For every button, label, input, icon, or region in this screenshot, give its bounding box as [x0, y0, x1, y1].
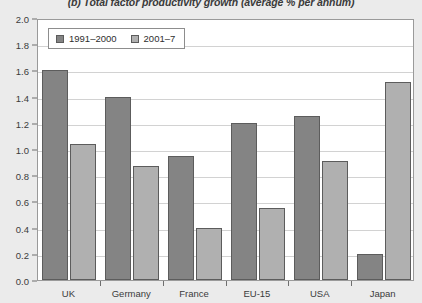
- y-axis-tick-label: 1.0: [0, 145, 29, 156]
- x-axis-tick-mark: [163, 281, 164, 286]
- y-axis-tick-label: 1.6: [0, 66, 29, 77]
- x-axis-tick-label-uk: UK: [62, 288, 75, 299]
- y-axis-tick-label: 0.8: [0, 171, 29, 182]
- x-axis-tick-label-germany: Germany: [112, 288, 151, 299]
- chart-legend: 1991–20002001–7: [48, 28, 185, 49]
- legend-swatch-icon: [131, 35, 139, 43]
- x-axis-tick-mark: [100, 281, 101, 286]
- bar-japan-series-1: [385, 82, 411, 280]
- y-axis-tick-label: 1.8: [0, 40, 29, 51]
- y-axis-tick-label: 2.0: [0, 14, 29, 25]
- legend-swatch-icon: [56, 35, 64, 43]
- plot-area: [37, 19, 414, 281]
- legend-label: 2001–7: [144, 33, 176, 44]
- legend-entry-0: 1991–2000: [56, 33, 117, 44]
- bar-france-series-0: [168, 156, 194, 280]
- bar-uk-series-1: [70, 144, 96, 280]
- x-axis-tick-mark: [351, 281, 352, 286]
- x-axis-tick-mark: [288, 281, 289, 286]
- bar-japan-series-0: [357, 254, 383, 280]
- legend-entry-1: 2001–7: [131, 33, 176, 44]
- y-axis-tick-label: 0.0: [0, 276, 29, 287]
- bar-germany-series-0: [105, 97, 131, 280]
- bar-france-series-1: [196, 228, 222, 280]
- gridline: [38, 99, 413, 100]
- bar-usa-series-0: [294, 116, 320, 280]
- bar-usa-series-1: [322, 161, 348, 280]
- x-axis-tick-mark: [226, 281, 227, 286]
- gridline: [38, 125, 413, 126]
- chart-title: (b) Total factor productivity growth (av…: [0, 0, 422, 8]
- y-axis-tick-label: 1.2: [0, 118, 29, 129]
- bar-germany-series-1: [133, 166, 159, 280]
- figure: (b) Total factor productivity growth (av…: [0, 0, 422, 303]
- bar-uk-series-0: [42, 70, 68, 280]
- y-axis-tick-label: 1.4: [0, 92, 29, 103]
- x-axis-tick-label-france: France: [179, 288, 209, 299]
- y-axis-tick-label: 0.2: [0, 249, 29, 260]
- x-axis-tick-label-usa: USA: [310, 288, 330, 299]
- bar-eu-15-series-0: [231, 123, 257, 280]
- x-axis-tick-label-japan: Japan: [370, 288, 396, 299]
- gridline: [38, 72, 413, 73]
- bar-eu-15-series-1: [259, 208, 285, 280]
- y-axis-tick-label: 0.6: [0, 197, 29, 208]
- legend-label: 1991–2000: [69, 33, 117, 44]
- x-axis-tick-label-eu-15: EU-15: [243, 288, 270, 299]
- y-axis-tick-label: 0.4: [0, 223, 29, 234]
